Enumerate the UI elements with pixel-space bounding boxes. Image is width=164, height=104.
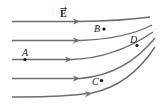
field-line-5 [12,47,155,97]
point-A-dot [23,58,26,61]
point-C: C [92,76,103,87]
point-D-dot [135,44,138,47]
point-B-label: B [94,23,100,34]
point-A-label: A [21,47,29,58]
field-line-1 [12,17,150,22]
point-B-dot [102,27,105,30]
field-label: E [60,7,67,19]
point-D-label: D [129,34,138,45]
point-B: B [94,23,106,34]
field-label-text: E [60,8,67,19]
electric-field-diagram: E B A D C [0,0,164,104]
point-C-label: C [92,76,99,87]
point-C-dot [100,79,103,82]
